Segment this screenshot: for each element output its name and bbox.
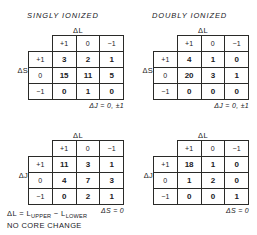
col-header-zero: 0: [76, 36, 100, 52]
table-row: 0 15 11 5: [29, 68, 124, 84]
table-header-row: +1 0 −1: [29, 36, 124, 52]
table-row: −1 0 1 0: [29, 84, 124, 100]
row-header-minus1: −1: [29, 84, 53, 100]
cell-value: 0: [225, 157, 249, 173]
cell-value: 1: [100, 157, 124, 173]
axis-label-delta-l: ΔL: [32, 131, 124, 140]
caption-subscript-lower: LOWER: [66, 213, 88, 219]
cell-value: 0: [177, 189, 201, 205]
row-header-zero: 0: [29, 173, 53, 189]
cell-value: 3: [52, 52, 76, 68]
caption-no-core-change: NO CORE CHANGE: [7, 221, 82, 230]
cell-value: 11: [52, 157, 76, 173]
table-row: 0 20 3 1: [154, 68, 249, 84]
data-table-singly-delta-s: +1 0 −1 +1 3 2 1 0 15 11 5 −1 0 1 0: [28, 35, 124, 100]
cell-value: 1: [225, 68, 249, 84]
cell-value: 1: [225, 189, 249, 205]
table-corner-cell: [29, 36, 53, 52]
cell-value: 1: [177, 173, 201, 189]
cell-value: 5: [100, 68, 124, 84]
col-header-zero: 0: [201, 36, 225, 52]
cell-value: 2: [76, 189, 100, 205]
table-header-row: +1 0 −1: [154, 36, 249, 52]
cell-value: 2: [201, 173, 225, 189]
cell-value: 18: [177, 157, 201, 173]
caption-delta-l-definition: ΔL = LUPPER − LLOWER: [7, 209, 87, 218]
table-block-singly-delta-s: ΔL ΔS +1 0 −1 +1 3 2 1 0 15 11 5 −1: [6, 26, 124, 114]
table-header-row: +1 0 −1: [29, 141, 124, 157]
cell-value: 0: [225, 52, 249, 68]
cell-value: 11: [76, 68, 100, 84]
col-header-minus1: −1: [225, 141, 249, 157]
cell-value: 15: [52, 68, 76, 84]
data-table-doubly-delta-s: +1 0 −1 +1 4 1 0 0 20 3 1 −1 0 0 0: [153, 35, 249, 100]
title-singly-ionized: SINGLY IONIZED: [27, 11, 99, 20]
axis-label-delta-s: ΔS: [131, 66, 153, 75]
axis-label-delta-l: ΔL: [32, 26, 124, 35]
caption-delta-l-pre: ΔL = L: [7, 209, 31, 218]
axis-label-delta-j: ΔJ: [131, 171, 153, 180]
figure-root: SINGLY IONIZED DOUBLY IONIZED ΔL ΔS +1 0…: [0, 0, 257, 235]
row-header-minus1: −1: [29, 189, 53, 205]
cell-value: 0: [52, 84, 76, 100]
axis-label-delta-l: ΔL: [157, 131, 249, 140]
axis-label-delta-l: ΔL: [157, 26, 249, 35]
row-header-minus1: −1: [154, 189, 178, 205]
cell-value: 0: [225, 173, 249, 189]
table-corner-cell: [29, 141, 53, 157]
table-row: 0 1 2 0: [154, 173, 249, 189]
table-note-delta-j: ΔJ = 0, ±1: [89, 102, 124, 109]
cell-value: 0: [177, 84, 201, 100]
col-header-zero: 0: [201, 141, 225, 157]
table-row: −1 0 2 1: [29, 189, 124, 205]
table-row: −1 0 0 0: [154, 84, 249, 100]
table-header-row: +1 0 −1: [154, 141, 249, 157]
row-header-plus1: +1: [29, 52, 53, 68]
cell-value: 3: [76, 157, 100, 173]
table-block-doubly-delta-j: ΔL ΔJ +1 0 −1 +1 18 1 0 0 1 2 0 −1: [131, 131, 249, 219]
row-header-minus1: −1: [154, 84, 178, 100]
col-header-plus1: +1: [52, 36, 76, 52]
cell-value: 1: [100, 52, 124, 68]
table-row: +1 18 1 0: [154, 157, 249, 173]
cell-value: 7: [76, 173, 100, 189]
table-block-singly-delta-j: ΔL ΔJ +1 0 −1 +1 11 3 1 0 4 7 3 −1: [6, 131, 124, 219]
cell-value: 3: [100, 173, 124, 189]
table-block-doubly-delta-s: ΔL ΔS +1 0 −1 +1 4 1 0 0 20 3 1 −1: [131, 26, 249, 114]
table-note-delta-s: ΔS = 0: [101, 207, 124, 214]
row-header-plus1: +1: [154, 157, 178, 173]
table-row: 0 4 7 3: [29, 173, 124, 189]
title-doubly-ionized: DOUBLY IONIZED: [152, 11, 227, 20]
col-header-zero: 0: [76, 141, 100, 157]
cell-value: 3: [201, 68, 225, 84]
row-header-zero: 0: [154, 68, 178, 84]
cell-value: 1: [201, 52, 225, 68]
row-header-zero: 0: [29, 68, 53, 84]
table-row: +1 4 1 0: [154, 52, 249, 68]
cell-value: 0: [201, 84, 225, 100]
row-header-zero: 0: [154, 173, 178, 189]
col-header-plus1: +1: [177, 36, 201, 52]
table-note-delta-s: ΔS = 0: [226, 207, 249, 214]
data-table-singly-delta-j: +1 0 −1 +1 11 3 1 0 4 7 3 −1 0 2 1: [28, 140, 124, 205]
cell-value: 0: [52, 189, 76, 205]
table-row: +1 3 2 1: [29, 52, 124, 68]
caption-subscript-upper: UPPER: [31, 213, 51, 219]
cell-value: 0: [201, 189, 225, 205]
cell-value: 2: [76, 52, 100, 68]
caption-delta-l-mid: − L: [51, 209, 65, 218]
cell-value: 0: [225, 84, 249, 100]
table-row: −1 0 0 1: [154, 189, 249, 205]
row-header-plus1: +1: [29, 157, 53, 173]
cell-value: 1: [76, 84, 100, 100]
axis-label-delta-s: ΔS: [6, 66, 28, 75]
col-header-plus1: +1: [177, 141, 201, 157]
col-header-minus1: −1: [225, 36, 249, 52]
data-table-doubly-delta-j: +1 0 −1 +1 18 1 0 0 1 2 0 −1 0 0 1: [153, 140, 249, 205]
cell-value: 20: [177, 68, 201, 84]
table-row: +1 11 3 1: [29, 157, 124, 173]
row-header-plus1: +1: [154, 52, 178, 68]
col-header-minus1: −1: [100, 36, 124, 52]
cell-value: 1: [201, 157, 225, 173]
table-corner-cell: [154, 36, 178, 52]
